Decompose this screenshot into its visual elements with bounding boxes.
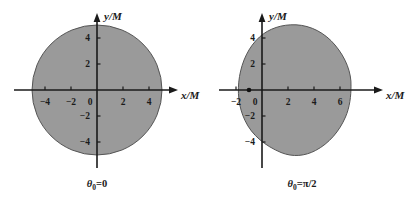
y-tick-label-minus4: −4 (245, 137, 255, 147)
y-tick-label-4: 4 (250, 33, 255, 43)
panel-caption: θ0=π/2 (287, 178, 316, 192)
x-axis-arrowhead (169, 87, 178, 94)
x-tick-label-zero: 0 (253, 97, 258, 107)
x-axis-label: x/M (180, 89, 201, 101)
x-tick-label-minus2: −2 (231, 97, 241, 107)
x-tick-label-minus4: −4 (40, 97, 50, 107)
y-tick-label-2: 2 (250, 59, 255, 69)
x-tick-label-4: 4 (312, 97, 317, 107)
x-tick-label-minus2: −2 (66, 97, 76, 107)
plot-panel-theta0-pi-over-2: −2 0 2 4 6 4 2 −2 −4 y/M x/M θ0=π/2 (205, 0, 409, 199)
y-tick-label-minus2: −2 (245, 111, 255, 121)
caption-value: π/2 (303, 178, 317, 189)
x-tick-label-6: 6 (338, 97, 343, 107)
y-axis-label: y/M (102, 10, 123, 22)
caption-value: 0 (102, 178, 107, 189)
panel-caption: θ0=0 (87, 178, 107, 192)
plot-panel-theta0-zero: −4 −2 0 2 4 4 2 −2 −4 y/M x/M θ0=0 (0, 0, 204, 199)
origin-dot-marker (247, 88, 252, 93)
x-axis-label: x/M (385, 89, 406, 101)
y-axis-arrowhead (259, 13, 266, 22)
x-axis-arrowhead (374, 87, 383, 94)
x-tick-label-4: 4 (147, 97, 152, 107)
y-tick-label-4: 4 (85, 33, 90, 43)
y-tick-label-minus2: −2 (80, 111, 90, 121)
x-tick-label-zero: 0 (88, 97, 93, 107)
y-tick-label-minus4: −4 (80, 137, 90, 147)
x-tick-label-2: 2 (121, 97, 126, 107)
y-tick-label-2: 2 (85, 59, 90, 69)
y-axis-label: y/M (267, 10, 288, 22)
figure-container: −4 −2 0 2 4 4 2 −2 −4 y/M x/M θ0=0 (0, 0, 409, 199)
y-axis-arrowhead (94, 13, 101, 22)
x-tick-label-2: 2 (286, 97, 291, 107)
